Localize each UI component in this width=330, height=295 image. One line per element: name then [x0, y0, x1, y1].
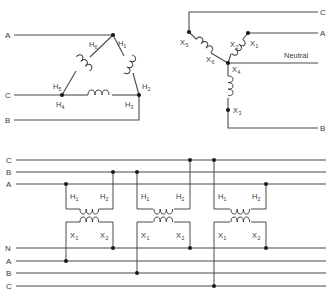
delta-label-b: B: [5, 116, 10, 125]
diagram-canvas: A C B H 6 H 1 H 5 H 4 H 2 H 3: [0, 0, 330, 295]
wye-terminal-x3: X: [233, 106, 238, 115]
delta-terminal-h6-sub: 6: [95, 44, 98, 50]
delta-left-vertex-junction: [60, 93, 64, 97]
transformer-1-x1-label: X: [70, 231, 75, 240]
delta-coil-bottom: [88, 90, 109, 95]
wye-line-c-wire: [189, 12, 318, 32]
transformer-1-x2-junction: [111, 246, 115, 250]
delta-terminal-h3-sub: 3: [131, 104, 134, 110]
transformer-2-h1-junction: [135, 170, 139, 174]
wye-terminal-x6-sub: 6: [212, 59, 215, 65]
transformer-3-h2-junction: [264, 182, 268, 186]
transformer-3-primary-coil: [231, 209, 250, 214]
wye-terminal-x5-sub: 5: [186, 42, 189, 48]
wye-connection: C A B Neutral X 5 X 6 X 2 X 1 X 4 X 3: [180, 8, 326, 133]
wye-terminal-x2: X: [230, 40, 235, 49]
delta-line-b-wire: [14, 95, 139, 120]
delta-connection: A C B H 6 H 1 H 5 H 4 H 2 H 3: [5, 31, 151, 125]
transformer-3-h1-sub: 1: [224, 196, 227, 202]
transformer-2-secondary-coil: [154, 217, 173, 222]
wye-coil-left: [196, 36, 214, 53]
transformer-3-x2-label: X: [252, 231, 257, 240]
transformer-3-x2-sub: 2: [258, 235, 261, 241]
bus-label-secondary-c: C: [6, 282, 12, 291]
delta-right-vertex-junction: [137, 93, 141, 97]
transformer-1-x1-junction: [64, 259, 68, 263]
transformer-3-x1-junction: [212, 284, 216, 288]
transformer-3-x2-junction: [264, 246, 268, 250]
transformer-1-x2-sub: 2: [106, 235, 109, 241]
delta-label-c: C: [5, 91, 11, 100]
delta-apex-junction: [111, 33, 115, 37]
transformer-3-h1-junction: [212, 158, 216, 162]
wye-center-node: [226, 61, 230, 65]
delta-leg-right-lower: [133, 73, 139, 95]
wye-terminal-x6: X: [206, 55, 211, 64]
wye-terminal-x5: X: [180, 38, 185, 47]
transformer-bank-schematic: C B A N A B C H 1 H 2: [5, 156, 326, 291]
transformer-2-h1-sub: 1: [147, 196, 150, 202]
wye-terminal-x2-sub: 2: [236, 44, 239, 50]
wye-line-b-wire: [228, 110, 318, 128]
delta-leg-left-lower: [62, 71, 76, 95]
transformer-1-x2-label: X: [100, 231, 105, 240]
bus-label-primary-a: A: [6, 180, 12, 189]
transformer-1-h2-sub: 2: [106, 196, 109, 202]
wye-label-a: A: [320, 29, 326, 38]
wye-x5-node: [187, 30, 191, 34]
wye-label-b: B: [320, 124, 325, 133]
transformer-1-primary-coil: [80, 209, 99, 214]
delta-terminal-h1-sub: 1: [124, 43, 127, 49]
transformer-2-x2-junction: [188, 246, 192, 250]
delta-label-a: A: [5, 31, 11, 40]
transformer-3-x1-label: X: [218, 231, 223, 240]
transformer-2-x2-label: X: [176, 231, 181, 240]
delta-terminal-h5-sub: 5: [59, 86, 62, 92]
delta-coil-right: [124, 55, 137, 75]
wye-terminal-x1: X: [250, 39, 255, 48]
bus-label-secondary-n: N: [5, 244, 11, 253]
bus-label-primary-b: B: [6, 168, 11, 177]
wye-x1-node: [246, 31, 250, 35]
delta-terminal-h4-sub: 4: [62, 104, 65, 110]
transformer-2-primary-coil: [154, 209, 173, 214]
transformer-2-x1-label: X: [141, 231, 146, 240]
wye-x3-node: [226, 108, 230, 112]
transformer-2-h2-sub: 2: [182, 196, 185, 202]
wye-coil-bottom: [228, 76, 233, 96]
transformer-2-h2-junction: [188, 158, 192, 162]
transformer-2: H 1 H 2 X 1 X 2: [135, 158, 192, 275]
wye-terminal-x1-sub: 1: [256, 43, 259, 49]
transformer-1-h1-sub: 1: [76, 196, 79, 202]
bus-label-secondary-b: B: [6, 269, 11, 278]
bus-label-secondary-a: A: [6, 257, 12, 266]
wye-label-neutral: Neutral: [284, 51, 309, 60]
transformer-3-x1-sub: 1: [224, 235, 227, 241]
transformer-3: H 1 H 2 X 1 X 2: [212, 158, 268, 288]
wye-terminal-x4: X: [232, 65, 237, 74]
transformer-3-h2-sub: 2: [258, 196, 261, 202]
bus-label-primary-c: C: [6, 156, 12, 165]
transformer-2-x1-junction: [135, 271, 139, 275]
delta-terminal-h2-sub: 2: [148, 86, 151, 92]
transformer-1-h2-junction: [111, 170, 115, 174]
transformer-2-x2-sub: 2: [182, 235, 185, 241]
wye-label-c: C: [320, 8, 326, 17]
transformer-2-x1-sub: 1: [147, 235, 150, 241]
transformer-1-h1-junction: [64, 182, 68, 186]
wye-terminal-x3-sub: 3: [239, 110, 242, 116]
transformer-1-x1-sub: 1: [76, 235, 79, 241]
transformer-3-secondary-coil: [231, 217, 250, 222]
transformer-1-secondary-coil: [80, 217, 99, 222]
wye-terminal-x4-sub: 4: [238, 69, 241, 75]
